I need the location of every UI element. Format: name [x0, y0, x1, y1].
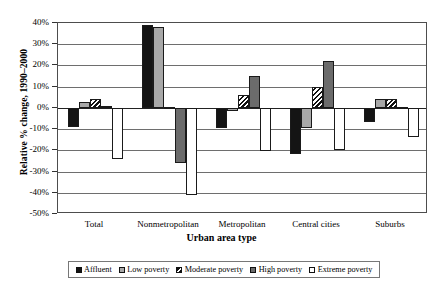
legend-label: Low poverty	[127, 265, 169, 274]
bar[interactable]	[101, 106, 112, 108]
plot-area	[57, 22, 427, 213]
y-axis-tick-label: -40%	[0, 187, 49, 197]
bar[interactable]	[153, 27, 164, 108]
x-axis-tick-label: Nonmetropolitan	[137, 219, 199, 229]
legend-swatch-icon	[250, 267, 256, 273]
bar[interactable]	[238, 95, 249, 108]
y-axis-tick-label: 0%	[0, 102, 49, 112]
bar[interactable]	[68, 108, 79, 127]
legend-swatch-icon	[309, 267, 315, 273]
legend-item[interactable]: Low poverty	[119, 265, 170, 274]
x-axis-tick-label: Metropolitan	[219, 219, 266, 229]
legend-item[interactable]: High poverty	[250, 265, 302, 274]
bar[interactable]	[312, 87, 323, 108]
y-axis-tick-label: 40%	[0, 17, 49, 27]
bar[interactable]	[408, 108, 419, 137]
legend-label: Affluent	[84, 265, 112, 274]
y-axis-tick-labels: 40%30%20%10%0%-10%-20%-30%-40%-50%	[0, 22, 53, 213]
legend-swatch-icon	[176, 267, 182, 273]
bar[interactable]	[227, 108, 238, 111]
bar[interactable]	[79, 102, 90, 108]
bar[interactable]	[290, 108, 301, 154]
y-axis-tick-label: -50%	[0, 208, 49, 218]
bar[interactable]	[364, 108, 375, 122]
bar-group	[290, 23, 345, 212]
legend: AffluentLow povertyModerate povertyHigh …	[68, 261, 380, 278]
bar-group	[364, 23, 419, 212]
legend-item[interactable]: Extreme poverty	[309, 265, 372, 274]
legend-label: High poverty	[259, 265, 302, 274]
bar[interactable]	[112, 108, 123, 159]
y-axis-tick-label: -30%	[0, 166, 49, 176]
bar-group	[216, 23, 271, 212]
bar[interactable]	[216, 108, 227, 128]
bar[interactable]	[164, 107, 175, 109]
legend-label: Moderate poverty	[185, 265, 243, 274]
y-axis-tick-label: 10%	[0, 81, 49, 91]
y-axis-tick-label: 30%	[0, 38, 49, 48]
x-axis-tick-label: Suburbs	[375, 219, 405, 229]
bar-chart: Relative % change, 1990–2000 40%30%20%10…	[0, 0, 443, 291]
legend-swatch-icon	[119, 267, 125, 273]
bar[interactable]	[90, 99, 101, 107]
y-axis-tick-label: 20%	[0, 59, 49, 69]
y-axis-tick-label: -20%	[0, 144, 49, 154]
bar[interactable]	[386, 99, 397, 107]
x-axis-title: Urban area type	[0, 232, 443, 243]
bar[interactable]	[142, 25, 153, 108]
bar[interactable]	[375, 99, 386, 107]
bar-group	[68, 23, 123, 212]
bar[interactable]	[397, 107, 408, 109]
x-axis-tick-label: Total	[85, 219, 103, 229]
y-axis-tick-label: -10%	[0, 123, 49, 133]
legend-label: Extreme poverty	[318, 265, 373, 274]
y-axis-tick-mark	[52, 213, 57, 214]
legend-item[interactable]: Moderate poverty	[176, 265, 243, 274]
bar-group	[142, 23, 197, 212]
bar[interactable]	[186, 108, 197, 195]
bar[interactable]	[175, 108, 186, 163]
x-axis-tick-label: Central cities	[292, 219, 340, 229]
legend-swatch-icon	[76, 267, 82, 273]
bar[interactable]	[260, 108, 271, 152]
bar[interactable]	[334, 108, 345, 150]
bar[interactable]	[301, 108, 312, 128]
legend-item[interactable]: Affluent	[76, 265, 112, 274]
bar[interactable]	[323, 61, 334, 108]
bar[interactable]	[249, 76, 260, 108]
